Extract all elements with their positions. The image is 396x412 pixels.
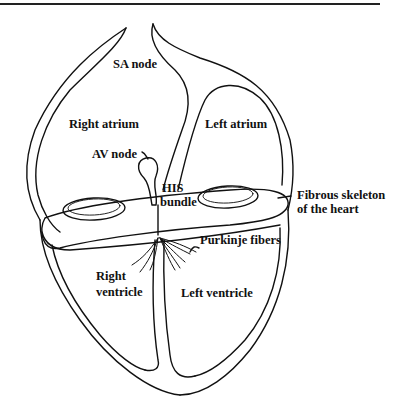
left-ventricle-inner-wall [195, 228, 280, 376]
label-left-atrium: Left atrium [205, 118, 267, 131]
tricuspid-valve-opening [62, 196, 125, 221]
label-his-bundle-line1: HIS [162, 182, 184, 195]
label-purkinje-fibers: Purkinje fibers [200, 234, 281, 247]
label-right-atrium: Right atrium [69, 118, 139, 131]
label-sa-node: SA node [113, 58, 157, 71]
label-right-ventricle-line1: Right [96, 270, 126, 283]
label-av-node: AV node [92, 148, 137, 161]
label-his-bundle-line2: bundle [160, 196, 197, 209]
right-ventricle-inner-wall [52, 245, 145, 370]
mitral-valve-opening [197, 184, 258, 209]
ventricular-septum-right [164, 240, 195, 377]
label-fibrous-skeleton-line1: Fibrous skeleton [297, 189, 385, 202]
label-right-ventricle-line2: ventricle [96, 286, 143, 299]
heart-conduction-diagram: SA node Right atrium Left atrium AV node… [0, 0, 396, 412]
ventricular-septum-left [145, 240, 158, 371]
label-fibrous-skeleton-line2: of the heart [297, 203, 359, 216]
left-atrium-inner-wall [178, 85, 283, 190]
label-left-ventricle: Left ventricle [181, 287, 253, 300]
fibrous-skeleton-leader-line [278, 196, 291, 198]
